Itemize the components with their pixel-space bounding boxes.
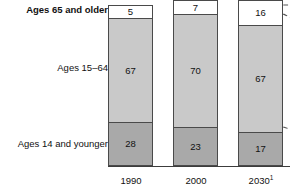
value-label: 67 — [255, 74, 266, 84]
value-label: 67 — [125, 66, 136, 76]
x-tick-label-1990: 1990 — [102, 175, 160, 186]
segment-1990-ages-15-64[interactable]: 67 — [108, 18, 153, 122]
x-tick-text: 2000 — [185, 175, 206, 186]
x-axis-baseline — [108, 166, 290, 167]
plot-area: 5 67 28 7 70 23 16 — [108, 0, 290, 195]
segment-1990-ages-65-and-older[interactable]: 5 — [108, 5, 153, 18]
value-label: 5 — [128, 7, 133, 17]
footnote-marker: 1 — [270, 174, 274, 181]
value-label: 7 — [193, 3, 198, 13]
x-tick-text: 1990 — [120, 175, 141, 186]
segment-2030-ages-15-64[interactable]: 67 — [238, 25, 283, 132]
value-label: 28 — [125, 139, 136, 149]
value-label: 17 — [255, 144, 266, 154]
bar-1990[interactable]: 5 67 28 — [108, 5, 153, 166]
category-label-ages-15-64: Ages 15–64 — [57, 62, 108, 73]
x-tick-label-2030: 20301 — [232, 175, 290, 186]
bar-2030[interactable]: 16 67 17 — [238, 0, 283, 166]
value-label: 70 — [190, 66, 201, 76]
x-tick-label-2000: 2000 — [167, 175, 225, 186]
category-label-ages-14-and-younger: Ages 14 and younger — [18, 138, 108, 149]
segment-2000-ages-14-and-younger[interactable]: 23 — [173, 127, 218, 166]
segment-2030-ages-65-and-older[interactable]: 16 — [238, 0, 283, 25]
segment-2030-ages-14-and-younger[interactable]: 17 — [238, 132, 283, 166]
stacked-bar-chart: Ages 65 and older Ages 15–64 Ages 14 and… — [0, 0, 290, 195]
segment-2000-ages-15-64[interactable]: 70 — [173, 14, 218, 127]
x-tick-text: 2030 — [249, 175, 270, 186]
segment-1990-ages-14-and-younger[interactable]: 28 — [108, 122, 153, 166]
bar-2000[interactable]: 7 70 23 — [173, 0, 218, 166]
category-label-ages-65-and-older: Ages 65 and older — [26, 4, 108, 15]
segment-2000-ages-65-and-older[interactable]: 7 — [173, 0, 218, 14]
value-label: 16 — [255, 8, 266, 18]
value-label: 23 — [190, 142, 201, 152]
